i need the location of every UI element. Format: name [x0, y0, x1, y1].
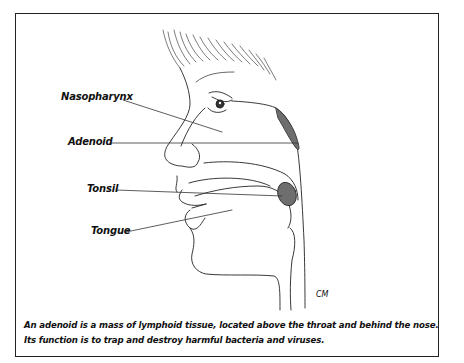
- leader-tongue: [126, 210, 232, 232]
- label-adenoid: Adenoid: [68, 136, 113, 147]
- leader-nasopharynx: [123, 100, 222, 132]
- leader-lines: [110, 100, 298, 232]
- tonsil-tissue: [274, 180, 299, 209]
- chin-jaw: [190, 228, 280, 310]
- label-nasopharynx: Nasopharynx: [61, 91, 133, 102]
- caption-line-2: Its function is to trap and destroy harm…: [24, 333, 434, 348]
- caption: An adenoid is a mass of lymphoid tissue,…: [24, 318, 434, 348]
- face-profile: [165, 68, 200, 167]
- label-tongue: Tongue: [91, 225, 130, 236]
- artist-signature: CM: [316, 290, 328, 299]
- tongue-surface: [195, 186, 291, 228]
- label-tonsil: Tonsil: [87, 183, 118, 194]
- hard-palate-lower: [189, 178, 270, 186]
- lower-lip: [185, 210, 205, 229]
- eyebrow: [196, 72, 234, 82]
- caption-line-1: An adenoid is a mass of lymphoid tissue,…: [24, 318, 434, 333]
- head-profile-illustration: [0, 0, 464, 363]
- throat-back: [290, 228, 295, 310]
